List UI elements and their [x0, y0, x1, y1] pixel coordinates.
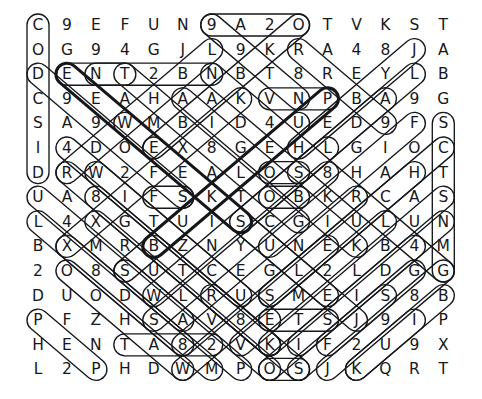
grid-cell[interactable]: S [149, 311, 159, 329]
grid-cell[interactable]: 9 [409, 336, 419, 354]
grid-cell[interactable]: I [354, 287, 359, 305]
grid-cell[interactable]: E [62, 336, 72, 354]
grid-cell[interactable]: I [325, 213, 330, 231]
grid-cell[interactable]: R [206, 287, 217, 305]
grid-cell[interactable]: B [177, 114, 188, 132]
grid-cell[interactable]: Y [380, 65, 391, 83]
grid-cell[interactable]: S [236, 213, 246, 231]
grid-cell[interactable]: H [119, 311, 131, 329]
grid-cell[interactable]: U [380, 336, 391, 354]
grid-cell[interactable]: W [146, 287, 161, 305]
grid-cell[interactable]: U [148, 16, 159, 34]
word-search-puzzle[interactable]: C9EFUN9A2OTVKSTOG94GJL9KRA48JADENT2BNBT8… [0, 0, 482, 399]
grid-cell[interactable]: V [206, 311, 217, 329]
grid-cell[interactable]: S [409, 16, 419, 34]
grid-cell[interactable]: D [379, 262, 391, 280]
grid-cell[interactable]: T [293, 311, 304, 329]
grid-cell[interactable]: J [411, 41, 417, 59]
grid-cell[interactable]: U [293, 114, 304, 132]
grid-cell[interactable]: N [206, 237, 218, 255]
grid-cell[interactable]: G [235, 139, 247, 157]
grid-cell[interactable]: G [437, 90, 449, 108]
grid-cell[interactable]: S [33, 114, 43, 132]
grid-cell[interactable]: S [178, 188, 188, 206]
grid-cell[interactable]: A [206, 90, 217, 108]
grid-cell[interactable]: H [293, 139, 305, 157]
diagonal-word-marker[interactable] [225, 83, 401, 237]
grid-cell[interactable]: S [120, 262, 130, 280]
grid-cell[interactable]: T [438, 16, 449, 34]
grid-cell[interactable]: M [292, 287, 305, 305]
grid-cell[interactable]: D [235, 114, 247, 132]
grid-cell[interactable]: Y [235, 237, 246, 255]
grid-cell[interactable]: J [179, 41, 185, 59]
grid-cell[interactable]: I [209, 213, 214, 231]
grid-cell[interactable]: S [294, 164, 304, 182]
grid-cell[interactable]: 4 [62, 213, 72, 231]
grid-cell[interactable]: K [351, 237, 362, 255]
grid-cell[interactable]: A [177, 90, 188, 108]
grid-cell[interactable]: E [62, 65, 72, 83]
grid-cell[interactable]: N [206, 65, 218, 83]
grid-cell[interactable]: A [380, 164, 391, 182]
grid-cell[interactable]: E [236, 262, 246, 280]
grid-cell[interactable]: 8 [178, 336, 188, 354]
grid-cell[interactable]: L [294, 262, 303, 280]
grid-cell[interactable]: F [149, 188, 158, 206]
grid-cell[interactable]: I [209, 114, 214, 132]
grid-cell[interactable]: K [322, 188, 333, 206]
grid-cell[interactable]: U [148, 262, 159, 280]
grid-cell[interactable]: G [264, 262, 276, 280]
grid-cell[interactable]: N [293, 237, 305, 255]
grid-cell[interactable]: 4 [409, 237, 419, 255]
grid-cell[interactable]: E [91, 16, 101, 34]
grid-cell[interactable]: L [381, 213, 390, 231]
grid-cell[interactable]: 8 [294, 65, 304, 83]
grid-cell[interactable]: E [178, 164, 188, 182]
grid-cell[interactable]: K [265, 41, 276, 59]
grid-cell[interactable]: H [351, 164, 363, 182]
grid-cell[interactable]: O [90, 287, 102, 305]
grid-cell[interactable]: G [293, 213, 305, 231]
puzzle-canvas[interactable]: C9EFUN9A2OTVKSTOG94GJL9KRA48JADENT2BNBT8… [0, 0, 482, 399]
grid-cell[interactable]: M [147, 114, 160, 132]
grid-cell[interactable]: D [32, 164, 44, 182]
grid-cell[interactable]: E [265, 139, 275, 157]
grid-cell[interactable]: W [88, 164, 103, 182]
grid-cell[interactable]: A [148, 336, 159, 354]
grid-cell[interactable]: H [148, 90, 160, 108]
grid-cell[interactable]: S [294, 360, 304, 378]
grid-cell[interactable]: J [353, 311, 359, 329]
grid-cell[interactable]: C [438, 139, 449, 157]
grid-cell[interactable]: S [265, 287, 275, 305]
grid-cell[interactable]: D [90, 139, 102, 157]
grid-cell[interactable]: S [323, 311, 333, 329]
diagonal-word-marker[interactable] [138, 9, 314, 163]
grid-cell[interactable]: L [410, 65, 419, 83]
grid-cell[interactable]: 2 [265, 16, 275, 34]
grid-cell[interactable]: A [409, 188, 420, 206]
grid-cell[interactable]: R [351, 188, 362, 206]
grid-cell[interactable]: M [89, 237, 102, 255]
grid-cell[interactable]: M [205, 360, 218, 378]
grid-cell[interactable]: F [410, 114, 419, 132]
grid-cell[interactable]: P [323, 90, 332, 108]
grid-cell[interactable]: R [62, 164, 73, 182]
grid-cell[interactable]: T [264, 65, 275, 83]
grid-cell[interactable]: O [292, 16, 304, 34]
grid-cell[interactable]: C [33, 16, 44, 34]
grid-cell[interactable]: 8 [409, 287, 419, 305]
grid-cell[interactable]: T [119, 336, 130, 354]
grid-cell[interactable]: 8 [323, 164, 333, 182]
grid-cell[interactable]: W [117, 114, 132, 132]
grid-cell[interactable]: F [120, 16, 129, 34]
grid-cell[interactable]: T [148, 213, 159, 231]
grid-cell[interactable]: 9 [207, 16, 217, 34]
grid-cell[interactable]: A [235, 16, 246, 34]
diagonal-word-marker[interactable] [254, 231, 430, 385]
grid-cell[interactable]: R [322, 65, 333, 83]
grid-cell[interactable]: Z [91, 311, 102, 329]
grid-cell[interactable]: D [148, 360, 160, 378]
grid-cell[interactable]: J [324, 360, 330, 378]
grid-cell[interactable]: 8 [91, 262, 101, 280]
